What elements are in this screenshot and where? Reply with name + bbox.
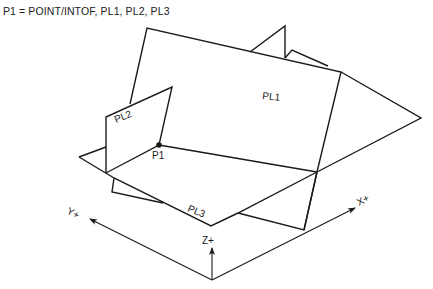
plane-pl1 xyxy=(112,28,341,230)
planes-intersection-diagram: P1 PL1 PL2 PL3 Y+ X+ Z+ xyxy=(0,0,433,289)
plane-label-pl2: PL2 xyxy=(113,108,134,125)
x-axis-arrow xyxy=(212,208,355,280)
intersection-point-p1 xyxy=(156,142,162,148)
plane-pl3 xyxy=(79,26,421,230)
point-label-p1: P1 xyxy=(152,150,165,161)
plane-label-pl1: PL1 xyxy=(262,90,281,103)
x-axis-label: X+ xyxy=(355,192,371,208)
y-axis-arrow xyxy=(90,219,212,280)
axis-triad xyxy=(90,208,355,280)
y-axis-label: Y+ xyxy=(65,205,81,221)
plane-label-pl3: PL3 xyxy=(186,203,207,220)
z-axis-label: Z+ xyxy=(202,235,214,246)
